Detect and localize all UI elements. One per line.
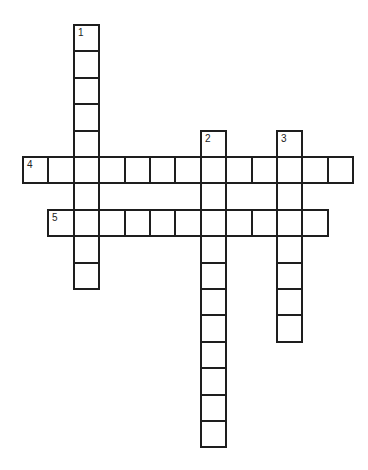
crossword-cell[interactable] <box>251 209 278 237</box>
cell-letter-input[interactable] <box>329 158 352 182</box>
cell-letter-input[interactable] <box>227 211 251 235</box>
crossword-cell[interactable] <box>174 209 202 237</box>
cell-letter-input[interactable] <box>100 158 124 182</box>
cell-letter-input[interactable] <box>202 132 225 156</box>
cell-letter-input[interactable] <box>202 396 225 420</box>
crossword-cell[interactable] <box>276 156 303 184</box>
crossword-cell[interactable] <box>98 156 126 184</box>
crossword-cell[interactable]: 5 <box>47 209 75 237</box>
crossword-cell[interactable] <box>200 341 227 369</box>
crossword-cell[interactable] <box>124 209 151 237</box>
cell-letter-input[interactable] <box>49 211 73 235</box>
crossword-cell[interactable] <box>47 156 75 184</box>
crossword-cell[interactable] <box>200 235 227 264</box>
crossword-cell[interactable] <box>200 420 227 448</box>
cell-letter-input[interactable] <box>202 237 225 262</box>
crossword-cell[interactable] <box>73 182 100 211</box>
cell-letter-input[interactable] <box>278 264 301 288</box>
crossword-cell[interactable] <box>301 209 329 237</box>
crossword-cell[interactable] <box>276 182 303 211</box>
cell-letter-input[interactable] <box>75 105 98 130</box>
crossword-cell[interactable]: 4 <box>22 156 49 184</box>
crossword-cell[interactable] <box>327 156 354 184</box>
crossword-cell[interactable] <box>124 156 151 184</box>
cell-letter-input[interactable] <box>176 158 200 182</box>
crossword-cell[interactable]: 1 <box>73 24 100 52</box>
cell-letter-input[interactable] <box>75 184 98 209</box>
crossword-cell[interactable] <box>200 209 227 237</box>
crossword-cell[interactable] <box>73 209 100 237</box>
crossword-cell[interactable] <box>149 156 176 184</box>
crossword-cell[interactable]: 2 <box>200 130 227 158</box>
crossword-cell[interactable] <box>276 314 303 343</box>
cell-letter-input[interactable] <box>151 158 174 182</box>
crossword-cell[interactable] <box>251 156 278 184</box>
cell-letter-input[interactable] <box>278 184 301 209</box>
cell-letter-input[interactable] <box>278 290 301 314</box>
cell-letter-input[interactable] <box>202 264 225 288</box>
cell-letter-input[interactable] <box>75 132 98 156</box>
cell-letter-input[interactable] <box>278 211 301 235</box>
crossword-cell[interactable] <box>149 209 176 237</box>
cell-letter-input[interactable] <box>176 211 200 235</box>
cell-letter-input[interactable] <box>75 26 98 50</box>
crossword-cell[interactable]: 3 <box>276 130 303 158</box>
crossword-cell[interactable] <box>225 156 253 184</box>
cell-letter-input[interactable] <box>100 211 124 235</box>
cell-letter-input[interactable] <box>303 158 327 182</box>
cell-letter-input[interactable] <box>75 211 98 235</box>
cell-letter-input[interactable] <box>278 158 301 182</box>
crossword-cell[interactable] <box>98 209 126 237</box>
cell-letter-input[interactable] <box>126 158 149 182</box>
cell-letter-input[interactable] <box>278 237 301 262</box>
crossword-cell[interactable] <box>73 103 100 132</box>
crossword-cell[interactable] <box>73 235 100 264</box>
cell-letter-input[interactable] <box>278 132 301 156</box>
cell-letter-input[interactable] <box>202 422 225 446</box>
cell-letter-input[interactable] <box>202 290 225 314</box>
cell-letter-input[interactable] <box>202 211 225 235</box>
cell-letter-input[interactable] <box>126 211 149 235</box>
cell-letter-input[interactable] <box>49 158 73 182</box>
crossword-cell[interactable] <box>200 367 227 396</box>
crossword-cell[interactable] <box>73 130 100 158</box>
cell-letter-input[interactable] <box>24 158 47 182</box>
crossword-cell[interactable] <box>276 288 303 316</box>
crossword-cell[interactable] <box>200 394 227 422</box>
crossword-cell[interactable] <box>73 262 100 290</box>
cell-letter-input[interactable] <box>253 211 276 235</box>
crossword-cell[interactable] <box>276 235 303 264</box>
crossword-cell[interactable] <box>301 156 329 184</box>
crossword-grid: 12345 <box>0 0 368 470</box>
cell-letter-input[interactable] <box>278 316 301 341</box>
cell-letter-input[interactable] <box>253 158 276 182</box>
cell-letter-input[interactable] <box>202 369 225 394</box>
cell-letter-input[interactable] <box>202 316 225 341</box>
cell-letter-input[interactable] <box>75 52 98 77</box>
crossword-cell[interactable] <box>200 314 227 343</box>
cell-letter-input[interactable] <box>202 343 225 367</box>
crossword-cell[interactable] <box>73 156 100 184</box>
crossword-cell[interactable] <box>200 288 227 316</box>
cell-letter-input[interactable] <box>75 158 98 182</box>
crossword-cell[interactable] <box>276 209 303 237</box>
crossword-cell[interactable] <box>200 182 227 211</box>
crossword-cell[interactable] <box>200 262 227 290</box>
cell-letter-input[interactable] <box>75 79 98 103</box>
crossword-cell[interactable] <box>200 156 227 184</box>
cell-letter-input[interactable] <box>202 158 225 182</box>
cell-letter-input[interactable] <box>227 158 251 182</box>
cell-letter-input[interactable] <box>303 211 327 235</box>
cell-letter-input[interactable] <box>75 264 98 288</box>
crossword-cell[interactable] <box>73 77 100 105</box>
crossword-cell[interactable] <box>276 262 303 290</box>
cell-letter-input[interactable] <box>202 184 225 209</box>
cell-letter-input[interactable] <box>75 237 98 262</box>
cell-letter-input[interactable] <box>151 211 174 235</box>
crossword-cell[interactable] <box>73 50 100 79</box>
crossword-cell[interactable] <box>225 209 253 237</box>
crossword-cell[interactable] <box>174 156 202 184</box>
